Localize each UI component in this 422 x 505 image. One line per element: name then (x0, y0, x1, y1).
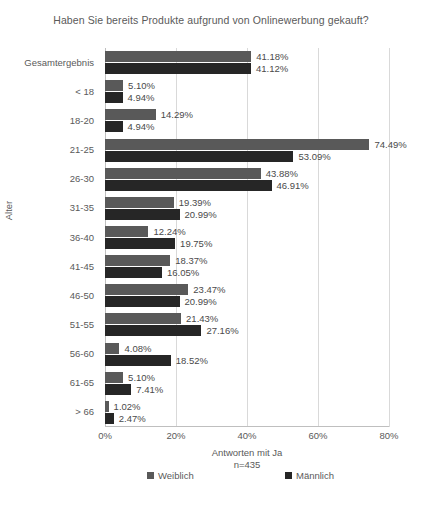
y-axis-label: 26-30 (0, 173, 98, 184)
x-axis-title: Antworten mit Ja n=435 (105, 447, 389, 471)
bar-männlich[interactable] (105, 413, 114, 424)
bar-weiblich[interactable] (105, 168, 261, 179)
x-axis-line (105, 426, 389, 427)
x-axis-tick: 0% (98, 430, 112, 441)
bar-value-label: 43.88% (266, 168, 298, 179)
bar-value-label: 16.05% (167, 267, 199, 278)
y-axis-label: 41-45 (0, 261, 98, 272)
y-axis-category-labels: Gesamtergebnis< 1818-2021-2526-3031-3536… (0, 48, 100, 427)
bar-value-label: 27.16% (206, 325, 238, 336)
x-axis-tick-labels: 0%20%40%60%80% (0, 430, 422, 444)
bar-group: 43.88%46.91% (105, 168, 389, 191)
y-axis-label: Gesamtergebnis (0, 57, 98, 68)
legend-item-weiblich[interactable]: Weiblich (147, 470, 194, 481)
bar-weiblich[interactable] (105, 197, 174, 208)
bar-männlich[interactable] (105, 121, 123, 132)
bar-weiblich[interactable] (105, 313, 181, 324)
bar-value-label: 19.39% (179, 197, 211, 208)
bar-männlich[interactable] (105, 325, 201, 336)
bar-value-label: 4.94% (128, 121, 155, 132)
bar-männlich[interactable] (105, 63, 251, 74)
bar-männlich[interactable] (105, 92, 123, 103)
y-axis-label: < 18 (0, 86, 98, 97)
bar-männlich[interactable] (105, 238, 175, 249)
bar-männlich[interactable] (105, 355, 171, 366)
legend-swatch-icon (147, 472, 154, 479)
y-axis-label: 36-40 (0, 232, 98, 243)
bar-value-label: 14.29% (161, 109, 193, 120)
bar-weiblich[interactable] (105, 401, 109, 412)
bar-value-label: 4.08% (124, 343, 151, 354)
y-axis-label: 56-60 (0, 348, 98, 359)
bar-value-label: 18.37% (175, 255, 207, 266)
bar-group: 19.39%20.99% (105, 197, 389, 220)
bar-weiblich[interactable] (105, 226, 148, 237)
bar-weiblich[interactable] (105, 51, 251, 62)
bar-männlich[interactable] (105, 384, 131, 395)
bar-weiblich[interactable] (105, 80, 123, 91)
bar-group: 5.10%4.94% (105, 80, 389, 103)
x-axis-tick: 60% (308, 430, 327, 441)
legend-label: Männlich (296, 470, 334, 481)
bar-männlich[interactable] (105, 209, 180, 220)
chart-container: Haben Sie bereits Produkte aufgrund von … (0, 0, 422, 505)
bar-weiblich[interactable] (105, 372, 123, 383)
bar-group: 21.43%27.16% (105, 313, 389, 336)
bar-value-label: 5.10% (128, 372, 155, 383)
bar-group: 1.02%2.47% (105, 401, 389, 424)
bar-group: 41.18%41.12% (105, 51, 389, 74)
x-axis-tick: 40% (237, 430, 256, 441)
bar-group: 4.08%18.52% (105, 343, 389, 366)
chart-title: Haben Sie bereits Produkte aufgrund von … (40, 13, 382, 28)
y-axis-label: > 66 (0, 406, 98, 417)
bar-value-label: 23.47% (193, 284, 225, 295)
bar-value-label: 18.52% (176, 355, 208, 366)
bar-group: 14.29%4.94% (105, 109, 389, 132)
y-axis-label: 18-20 (0, 115, 98, 126)
bar-männlich[interactable] (105, 267, 162, 278)
bar-männlich[interactable] (105, 180, 272, 191)
bar-value-label: 41.12% (256, 63, 288, 74)
bar-männlich[interactable] (105, 296, 180, 307)
bar-value-label: 4.94% (128, 92, 155, 103)
y-axis-label: 31-35 (0, 202, 98, 213)
bar-value-label: 21.43% (186, 313, 218, 324)
legend-swatch-icon (285, 472, 292, 479)
y-axis-label: 61-65 (0, 377, 98, 388)
bar-value-label: 41.18% (256, 51, 288, 62)
bar-weiblich[interactable] (105, 255, 170, 266)
bar-value-label: 1.02% (114, 401, 141, 412)
bar-männlich[interactable] (105, 151, 293, 162)
bar-value-label: 20.99% (185, 296, 217, 307)
bar-weiblich[interactable] (105, 139, 369, 150)
bar-value-label: 12.24% (153, 226, 185, 237)
bar-value-label: 5.10% (128, 80, 155, 91)
bar-weiblich[interactable] (105, 284, 188, 295)
bar-value-label: 19.75% (180, 238, 212, 249)
bar-group: 5.10%7.41% (105, 372, 389, 395)
bar-group: 23.47%20.99% (105, 284, 389, 307)
gridline-80 (389, 48, 390, 427)
legend-item-männlich[interactable]: Männlich (285, 470, 334, 481)
y-axis-label: 51-55 (0, 319, 98, 330)
y-axis-label: 21-25 (0, 144, 98, 155)
y-axis-label: 46-50 (0, 290, 98, 301)
bar-group: 74.49%53.09% (105, 139, 389, 162)
x-axis-tick: 20% (166, 430, 185, 441)
bar-value-label: 74.49% (374, 139, 406, 150)
bar-value-label: 2.47% (119, 413, 146, 424)
bar-weiblich[interactable] (105, 109, 156, 120)
x-axis-title-main: Antworten mit Ja (105, 447, 389, 459)
legend-label: Weiblich (158, 470, 194, 481)
bar-group: 18.37%16.05% (105, 255, 389, 278)
chart-legend: WeiblichMännlich (105, 470, 389, 486)
x-axis-tick: 80% (379, 430, 398, 441)
bar-value-label: 46.91% (277, 180, 309, 191)
bar-group: 12.24%19.75% (105, 226, 389, 249)
bar-value-label: 7.41% (136, 384, 163, 395)
bar-weiblich[interactable] (105, 343, 119, 354)
plot-area: 41.18%41.12%5.10%4.94%14.29%4.94%74.49%5… (105, 48, 389, 427)
bar-value-label: 53.09% (298, 151, 330, 162)
bar-value-label: 20.99% (185, 209, 217, 220)
